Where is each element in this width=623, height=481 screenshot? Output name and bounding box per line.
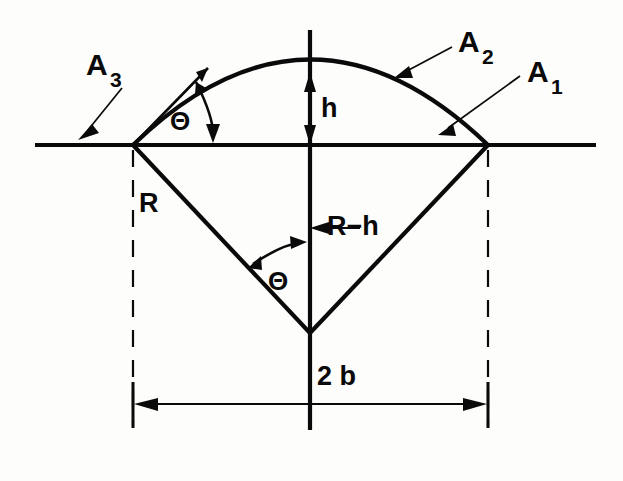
label-apothem: R−h — [327, 211, 379, 241]
diagram-canvas: A 3 A 2 A 1 h R R−h 2 b Θ Θ — [0, 0, 623, 481]
angle-arc-upper-arrowhead-end — [206, 124, 220, 143]
label-a1-subscript: 1 — [551, 75, 563, 98]
chord-arrowhead-left — [134, 398, 158, 411]
label-angle-lower: Θ — [268, 266, 288, 296]
radius-leg-left — [133, 145, 310, 333]
label-a3: A 3 — [86, 48, 122, 91]
a3-arrowhead — [78, 124, 99, 140]
chord-arrowhead-right — [463, 398, 487, 411]
label-height: h — [321, 93, 338, 123]
angle-arc-lower-arrowhead-start — [248, 256, 262, 270]
label-radius: R — [139, 188, 159, 218]
angle-arc-lower-arrowhead-end — [290, 236, 307, 249]
label-a3-base: A — [86, 48, 108, 81]
label-angle-upper: Θ — [170, 106, 190, 136]
label-a1-base: A — [527, 55, 549, 88]
label-a2-base: A — [458, 25, 480, 58]
height-arrowhead-down — [304, 125, 316, 145]
label-a2: A 2 — [458, 25, 494, 68]
a2-leader-line — [405, 47, 452, 72]
a1-leader-line — [448, 76, 520, 128]
label-a2-subscript: 2 — [482, 45, 494, 68]
label-a3-subscript: 3 — [110, 68, 122, 91]
a1-arrowhead — [438, 124, 456, 136]
a3-leader-line — [88, 88, 122, 130]
a2-arrowhead — [394, 66, 413, 78]
circular-segment-figure: A 3 A 2 A 1 h R R−h 2 b Θ Θ — [0, 0, 623, 481]
label-chord: 2 b — [317, 361, 356, 391]
label-a1: A 1 — [527, 55, 563, 98]
height-arrowhead-up — [304, 72, 316, 92]
